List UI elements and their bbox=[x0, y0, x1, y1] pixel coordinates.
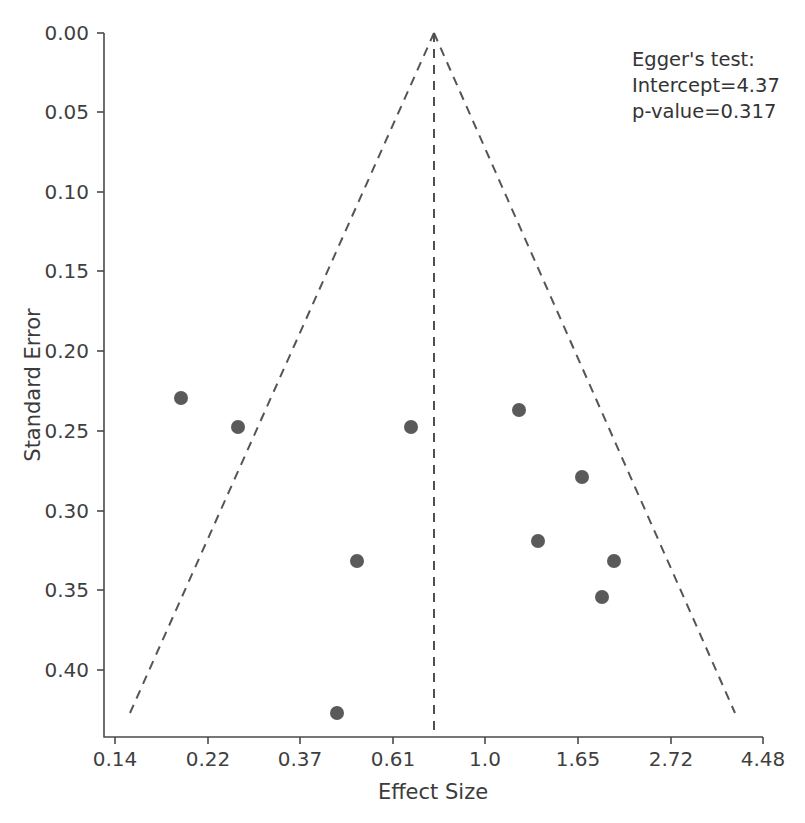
y-tick-label: 0.35 bbox=[44, 578, 89, 602]
data-point bbox=[231, 420, 245, 434]
y-axis-tickmarks bbox=[97, 33, 104, 670]
y-tick-label: 0.00 bbox=[44, 21, 89, 45]
data-point bbox=[404, 420, 418, 434]
funnel-left-boundary bbox=[130, 33, 434, 713]
x-tick-label: 0.14 bbox=[93, 747, 138, 771]
y-tick-label: 0.30 bbox=[44, 499, 89, 523]
x-axis-title: Effect Size bbox=[378, 780, 488, 804]
y-axis-title: Standard Error bbox=[21, 308, 45, 462]
data-point bbox=[595, 590, 609, 604]
eggers-test-annotation: Egger's test: Intercept=4.37 p-value=0.3… bbox=[632, 48, 780, 123]
y-tick-label: 0.10 bbox=[44, 180, 89, 204]
data-point bbox=[350, 554, 364, 568]
funnel-plot-figure: 0.00 0.05 0.10 0.15 0.20 0.25 0.30 0.35 … bbox=[0, 0, 805, 823]
data-points-group bbox=[174, 391, 621, 720]
x-tick-label: 0.22 bbox=[186, 747, 231, 771]
y-tick-label: 0.25 bbox=[44, 419, 89, 443]
eggers-test-title: Egger's test: bbox=[632, 48, 755, 71]
y-axis-tick-labels: 0.00 0.05 0.10 0.15 0.20 0.25 0.30 0.35 … bbox=[44, 21, 89, 682]
y-tick-label: 0.40 bbox=[44, 658, 89, 682]
data-point bbox=[512, 403, 526, 417]
funnel-plot-canvas: 0.00 0.05 0.10 0.15 0.20 0.25 0.30 0.35 … bbox=[0, 0, 805, 823]
data-point bbox=[607, 554, 621, 568]
x-tick-label: 2.72 bbox=[649, 747, 694, 771]
x-tick-label: 0.37 bbox=[278, 747, 323, 771]
y-tick-label: 0.15 bbox=[44, 259, 89, 283]
x-tick-label: 0.61 bbox=[371, 747, 416, 771]
x-axis-tickmarks bbox=[115, 737, 763, 744]
funnel-right-boundary bbox=[434, 33, 735, 713]
y-tick-label: 0.05 bbox=[44, 100, 89, 124]
x-tick-label: 1.0 bbox=[469, 747, 501, 771]
x-tick-label: 4.48 bbox=[741, 747, 786, 771]
x-axis-tick-labels: 0.14 0.22 0.37 0.61 1.0 1.65 2.72 4.48 bbox=[93, 747, 786, 771]
x-tick-label: 1.65 bbox=[556, 747, 601, 771]
data-point bbox=[575, 470, 589, 484]
y-tick-label: 0.20 bbox=[44, 339, 89, 363]
data-point bbox=[174, 391, 188, 405]
data-point bbox=[531, 534, 545, 548]
eggers-test-pvalue: p-value=0.317 bbox=[632, 100, 776, 123]
data-point bbox=[330, 706, 344, 720]
eggers-test-intercept: Intercept=4.37 bbox=[632, 74, 780, 97]
